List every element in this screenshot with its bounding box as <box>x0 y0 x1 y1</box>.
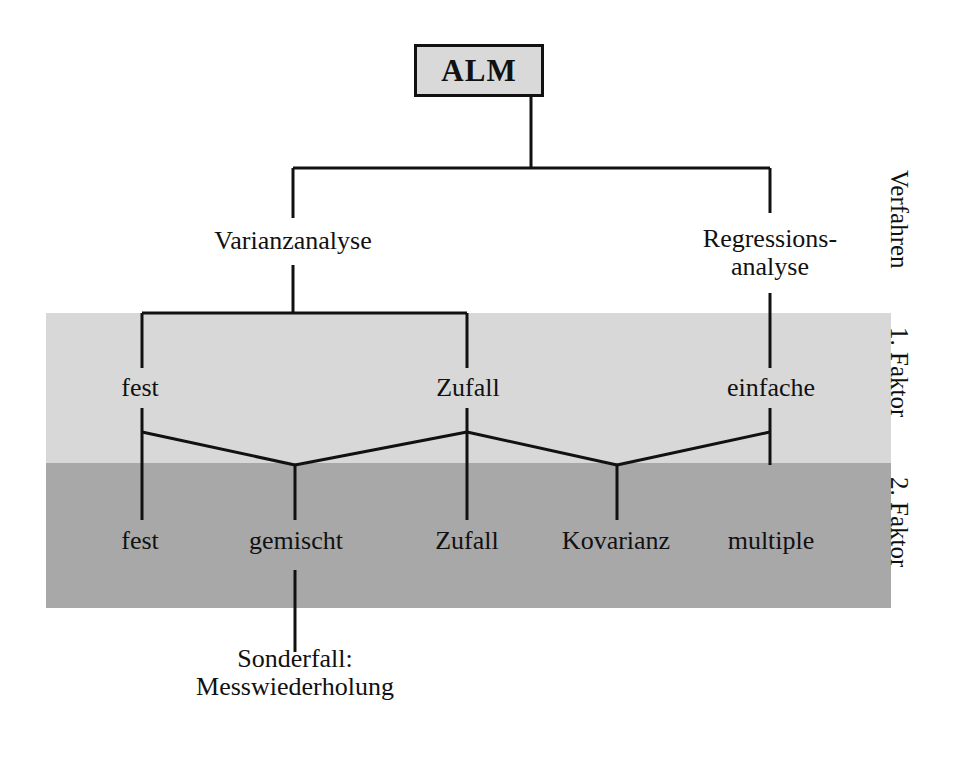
alm-diagram: ALM Varianzanalyse Regressions- analyse … <box>0 0 960 765</box>
node-multiple-faktor2: multiple <box>728 527 815 555</box>
node-varianzanalyse: Varianzanalyse <box>214 227 371 255</box>
node-zufall-faktor2: Zufall <box>435 527 499 555</box>
band-caption-verfahren-label: Verfahren <box>886 170 913 269</box>
node-einfache-faktor1: einfache <box>727 374 815 402</box>
node-alm-label: ALM <box>441 55 516 86</box>
node-multiple-faktor2-label: multiple <box>728 526 815 555</box>
node-fest-faktor1: fest <box>121 374 159 402</box>
node-einfache-faktor1-label: einfache <box>727 373 815 402</box>
node-kovarianz-faktor2: Kovarianz <box>562 527 670 555</box>
node-zufall-faktor1-label: Zufall <box>436 373 500 402</box>
node-zufall-faktor2-label: Zufall <box>435 526 499 555</box>
node-sonderfall-line1: Sonderfall: <box>237 644 353 673</box>
node-sonderfall-line2: Messwiederholung <box>196 672 394 701</box>
band-caption-faktor1: 1. Faktor <box>887 327 912 417</box>
node-zufall-faktor1: Zufall <box>436 374 500 402</box>
node-alm: ALM <box>414 44 544 97</box>
node-fest-faktor2-label: fest <box>121 526 159 555</box>
node-regressionsanalyse-label-line1: Regressions- <box>703 224 837 253</box>
node-regressionsanalyse-label-line2: analyse <box>731 252 809 281</box>
band-caption-faktor2-label: 2. Faktor <box>886 477 913 567</box>
node-fest-faktor2: fest <box>121 527 159 555</box>
node-fest-faktor1-label: fest <box>121 373 159 402</box>
node-kovarianz-faktor2-label: Kovarianz <box>562 526 670 555</box>
node-sonderfall: Sonderfall: Messwiederholung <box>196 645 394 701</box>
band-caption-faktor1-label: 1. Faktor <box>886 327 913 417</box>
node-gemischt-faktor2: gemischt <box>249 527 343 555</box>
node-regressionsanalyse: Regressions- analyse <box>665 225 875 281</box>
band-caption-faktor2: 2. Faktor <box>887 477 912 567</box>
node-gemischt-faktor2-label: gemischt <box>249 526 343 555</box>
node-varianzanalyse-label: Varianzanalyse <box>214 226 371 255</box>
band-caption-verfahren: Verfahren <box>887 170 912 269</box>
